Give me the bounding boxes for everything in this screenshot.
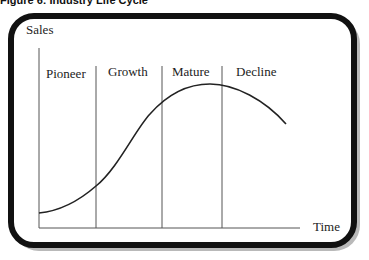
stage-label-decline: Decline — [236, 64, 276, 80]
x-axis-label: Time — [313, 219, 340, 235]
y-axis-label: Sales — [26, 22, 53, 38]
stage-label-mature: Mature — [172, 64, 210, 80]
stage-label-pioneer: Pioneer — [46, 66, 86, 82]
stage-label-growth: Growth — [108, 64, 148, 80]
